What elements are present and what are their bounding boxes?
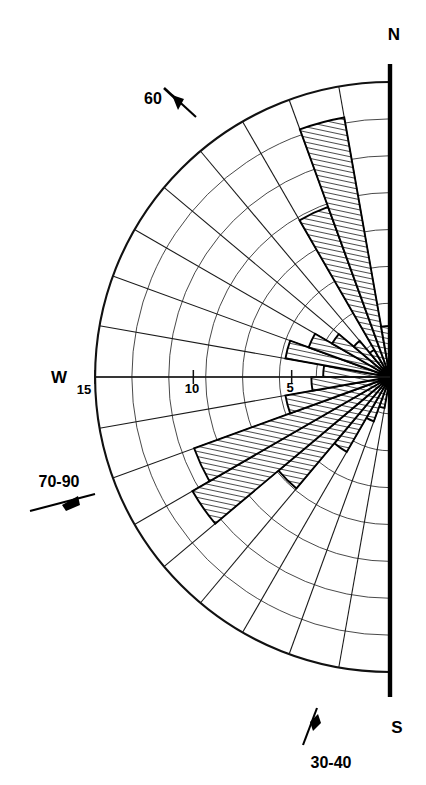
radial-tick-label-5: 5 bbox=[286, 380, 293, 395]
cardinal-label-west: W bbox=[51, 368, 68, 387]
cardinal-label-south: S bbox=[391, 718, 402, 737]
rose-diagram-svg: N W S 15 10 5 60 70-90 30-40 bbox=[0, 0, 426, 785]
annotation-label-30-40: 30-40 bbox=[311, 754, 352, 771]
wind-barb-icon-30-40 bbox=[303, 708, 321, 745]
annotation-label-70-90: 70-90 bbox=[39, 473, 80, 490]
annotation-label-60: 60 bbox=[144, 90, 162, 107]
cardinal-label-north: N bbox=[388, 25, 400, 44]
radial-tick-label-10: 10 bbox=[185, 381, 199, 396]
rose-diagram-figure: N W S 15 10 5 60 70-90 30-40 bbox=[0, 0, 426, 785]
wind-barb-icon-70-90 bbox=[30, 494, 95, 511]
wind-barb-icon-60 bbox=[164, 88, 196, 117]
radial-tick-label-15: 15 bbox=[77, 382, 91, 397]
